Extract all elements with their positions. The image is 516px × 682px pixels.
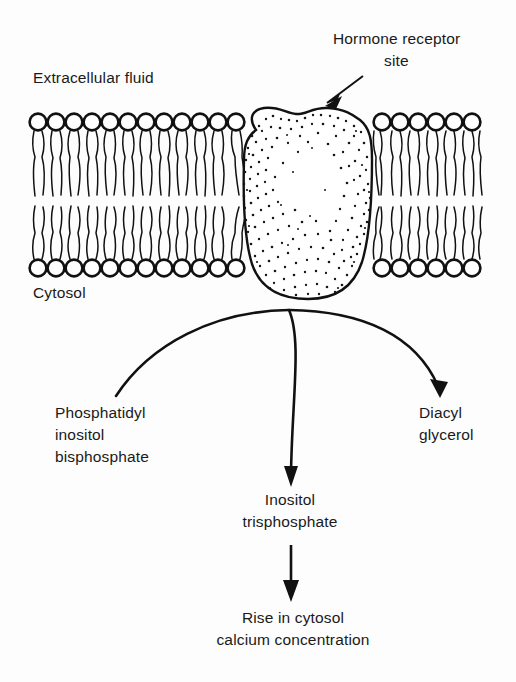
label-inositol-line1: Inositol	[265, 491, 315, 508]
upper-leaflet-heads-right	[374, 114, 481, 131]
phospholipid-head	[446, 260, 463, 277]
phospholipid-head	[156, 114, 173, 131]
phospholipid-head	[138, 260, 155, 277]
label-pip2-line3: bisphosphate	[55, 448, 149, 465]
upper-leaflet-tails-right	[373, 131, 482, 196]
signal-pathway-arrows	[116, 310, 448, 602]
phospholipid-head	[392, 260, 409, 277]
phospholipid-head	[392, 114, 409, 131]
phospholipid-head	[174, 260, 191, 277]
phospholipid-head	[374, 114, 391, 131]
phospholipid-head	[120, 260, 137, 277]
phospholipid-head	[464, 260, 481, 277]
phospholipid-head	[102, 260, 119, 277]
label-diacylglycerol-line1: Diacyl	[419, 404, 462, 421]
phospholipid-head	[48, 260, 65, 277]
phospholipid-head	[428, 260, 445, 277]
phospholipid-head	[30, 260, 47, 277]
phospholipid-head	[30, 114, 47, 131]
phospholipid-head	[210, 114, 227, 131]
label-extracellular-fluid: Extracellular fluid	[33, 69, 154, 86]
calcium-arrowhead	[283, 580, 299, 602]
label-hormone-receptor-line1: Hormone receptor	[333, 30, 460, 47]
hormone-receptor-pointer-arrow	[325, 76, 363, 109]
label-calcium-line2: calcium concentration	[216, 631, 369, 648]
inositol-arrowhead	[284, 466, 298, 487]
label-hormone-receptor-line2: site	[384, 52, 409, 69]
phospholipid-head	[102, 114, 119, 131]
upper-leaflet-tails-left	[33, 131, 248, 196]
hormone-receptor-diagram: Extracellular fluid Cytosol Hormone rece…	[0, 0, 516, 682]
label-diacylglycerol-line2: glycerol	[419, 426, 474, 443]
phospholipid-head	[210, 260, 227, 277]
phospholipid-head	[428, 114, 445, 131]
label-pip2-line1: Phosphatidyl	[55, 404, 146, 421]
phospholipid-head	[410, 114, 427, 131]
phospholipid-head	[156, 260, 173, 277]
phospholipid-head	[446, 114, 463, 131]
phospholipid-head	[410, 260, 427, 277]
label-inositol-line2: trisphosphate	[242, 513, 337, 530]
pip2-to-receptor-arc	[116, 310, 289, 396]
label-calcium-line1: Rise in cytosol	[242, 609, 344, 626]
label-cytosol: Cytosol	[33, 284, 86, 301]
phospholipid-head	[192, 114, 209, 131]
phospholipid-head	[48, 114, 65, 131]
lower-leaflet-tails-right	[373, 206, 482, 259]
phospholipid-head	[174, 114, 191, 131]
receptor-to-inositol-curve	[289, 310, 296, 474]
phospholipid-head	[228, 260, 245, 277]
diacylglycerol-arrowhead	[430, 379, 448, 398]
phospholipid-head	[374, 260, 391, 277]
lower-leaflet-heads-left	[30, 260, 245, 277]
lower-leaflet-tails-left	[33, 206, 248, 259]
phospholipid-head	[66, 260, 83, 277]
lower-leaflet-heads-right	[374, 260, 481, 277]
phospholipid-head	[228, 114, 245, 131]
phospholipid-head	[84, 260, 101, 277]
phospholipid-head	[138, 114, 155, 131]
receptor-to-diacylglycerol-arc	[289, 310, 438, 386]
diagram-canvas: Extracellular fluid Cytosol Hormone rece…	[0, 0, 516, 682]
phospholipid-head	[84, 114, 101, 131]
upper-leaflet-heads-left	[30, 114, 245, 131]
phospholipid-head	[192, 260, 209, 277]
label-pip2-line2: inositol	[55, 426, 104, 443]
phospholipid-head	[464, 114, 481, 131]
hormone-receptor-protein	[243, 108, 372, 299]
phospholipid-head	[120, 114, 137, 131]
phospholipid-head	[66, 114, 83, 131]
